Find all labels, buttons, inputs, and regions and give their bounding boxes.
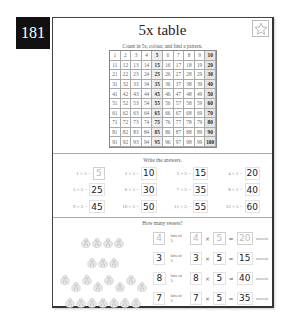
grid-cell[interactable]: 48 [184, 89, 195, 99]
grid-cell[interactable]: 23 [131, 70, 142, 80]
grid-cell[interactable]: 76 [163, 118, 174, 128]
grid-cell[interactable]: 87 [174, 128, 185, 138]
grid-cell[interactable]: 63 [131, 109, 142, 119]
lots-count-box[interactable]: 4 [153, 232, 166, 245]
grid-cell[interactable]: 15 [152, 61, 163, 71]
grid-cell[interactable]: 6 [163, 51, 174, 61]
grid-cell[interactable]: 93 [131, 137, 142, 147]
grid-cell[interactable]: 38 [184, 80, 195, 90]
grid-cell[interactable]: 89 [195, 128, 206, 138]
grid-cell[interactable]: 62 [121, 109, 132, 119]
multiplicand-box[interactable]: 7 [190, 292, 203, 305]
grid-cell[interactable]: 51 [110, 99, 121, 109]
grid-cell[interactable]: 40 [205, 80, 216, 90]
grid-cell[interactable]: 69 [195, 109, 206, 119]
grid-cell[interactable]: 7 [174, 51, 185, 61]
grid-cell[interactable]: 52 [121, 99, 132, 109]
grid-cell[interactable]: 46 [163, 89, 174, 99]
grid-cell[interactable]: 82 [121, 128, 132, 138]
grid-cell[interactable]: 61 [110, 109, 121, 119]
grid-cell[interactable]: 57 [174, 99, 185, 109]
answer-box[interactable]: 60 [245, 200, 260, 213]
grid-cell[interactable]: 14 [142, 61, 153, 71]
multiplicand-box[interactable]: 4 [190, 232, 203, 245]
answer-box[interactable]: 35 [193, 183, 208, 196]
grid-cell[interactable]: 70 [205, 109, 216, 119]
grid-cell[interactable]: 41 [110, 89, 121, 99]
lots-count-box[interactable]: 8 [153, 272, 166, 285]
result-box[interactable]: 15 [237, 252, 253, 265]
grid-cell[interactable]: 42 [121, 89, 132, 99]
grid-cell[interactable]: 78 [184, 118, 195, 128]
grid-cell[interactable]: 66 [163, 109, 174, 119]
grid-cell[interactable]: 29 [195, 70, 206, 80]
grid-cell[interactable]: 19 [195, 61, 206, 71]
grid-cell[interactable]: 10 [205, 51, 216, 61]
grid-cell[interactable]: 20 [205, 61, 216, 71]
grid-cell[interactable]: 5 [152, 51, 163, 61]
grid-cell[interactable]: 33 [131, 80, 142, 90]
answer-box[interactable]: 55 [193, 200, 208, 213]
grid-cell[interactable]: 43 [131, 89, 142, 99]
grid-cell[interactable]: 26 [163, 70, 174, 80]
result-box[interactable]: 40 [237, 272, 253, 285]
grid-cell[interactable]: 60 [205, 99, 216, 109]
answer-box[interactable]: 30 [141, 183, 156, 196]
grid-cell[interactable]: 8 [184, 51, 195, 61]
grid-cell[interactable]: 73 [131, 118, 142, 128]
grid-cell[interactable]: 54 [142, 99, 153, 109]
grid-cell[interactable]: 79 [195, 118, 206, 128]
grid-cell[interactable]: 9 [195, 51, 206, 61]
grid-cell[interactable]: 30 [205, 70, 216, 80]
result-box[interactable]: 35 [237, 292, 253, 305]
grid-cell[interactable]: 49 [195, 89, 206, 99]
grid-cell[interactable]: 84 [142, 128, 153, 138]
grid-cell[interactable]: 44 [142, 89, 153, 99]
grid-cell[interactable]: 56 [163, 99, 174, 109]
grid-cell[interactable]: 2 [121, 51, 132, 61]
grid-cell[interactable]: 67 [174, 109, 185, 119]
answer-box[interactable]: 15 [193, 167, 208, 180]
grid-cell[interactable]: 31 [110, 80, 121, 90]
grid-cell[interactable]: 16 [163, 61, 174, 71]
grid-cell[interactable]: 13 [131, 61, 142, 71]
grid-cell[interactable]: 68 [184, 109, 195, 119]
grid-cell[interactable]: 74 [142, 118, 153, 128]
multiplier-box[interactable]: 5 [213, 252, 226, 265]
grid-cell[interactable]: 21 [110, 70, 121, 80]
grid-cell[interactable]: 75 [152, 118, 163, 128]
grid-cell[interactable]: 53 [131, 99, 142, 109]
grid-cell[interactable]: 90 [205, 128, 216, 138]
grid-cell[interactable]: 1 [110, 51, 121, 61]
grid-cell[interactable]: 34 [142, 80, 153, 90]
grid-cell[interactable]: 17 [174, 61, 185, 71]
grid-cell[interactable]: 80 [205, 118, 216, 128]
grid-cell[interactable]: 58 [184, 99, 195, 109]
answer-box[interactable]: 5 [93, 167, 105, 180]
grid-cell[interactable]: 11 [110, 61, 121, 71]
answer-box[interactable]: 25 [89, 183, 104, 196]
grid-cell[interactable]: 36 [163, 80, 174, 90]
multiplier-box[interactable]: 5 [213, 292, 226, 305]
grid-cell[interactable]: 95 [152, 137, 163, 147]
multiplier-box[interactable]: 5 [213, 232, 226, 245]
lots-count-box[interactable]: 3 [153, 252, 166, 265]
grid-cell[interactable]: 22 [121, 70, 132, 80]
grid-cell[interactable]: 86 [163, 128, 174, 138]
grid-cell[interactable]: 39 [195, 80, 206, 90]
grid-cell[interactable]: 24 [142, 70, 153, 80]
grid-cell[interactable]: 27 [174, 70, 185, 80]
grid-cell[interactable]: 35 [152, 80, 163, 90]
grid-cell[interactable]: 37 [174, 80, 185, 90]
answer-box[interactable]: 40 [245, 183, 260, 196]
grid-cell[interactable]: 97 [174, 137, 185, 147]
grid-cell[interactable]: 83 [131, 128, 142, 138]
grid-cell[interactable]: 4 [142, 51, 153, 61]
answer-box[interactable]: 45 [89, 200, 104, 213]
grid-cell[interactable]: 96 [163, 137, 174, 147]
result-box[interactable]: 20 [237, 232, 253, 245]
answer-box[interactable]: 50 [141, 200, 156, 213]
grid-cell[interactable]: 47 [174, 89, 185, 99]
grid-cell[interactable]: 98 [184, 137, 195, 147]
grid-cell[interactable]: 81 [110, 128, 121, 138]
